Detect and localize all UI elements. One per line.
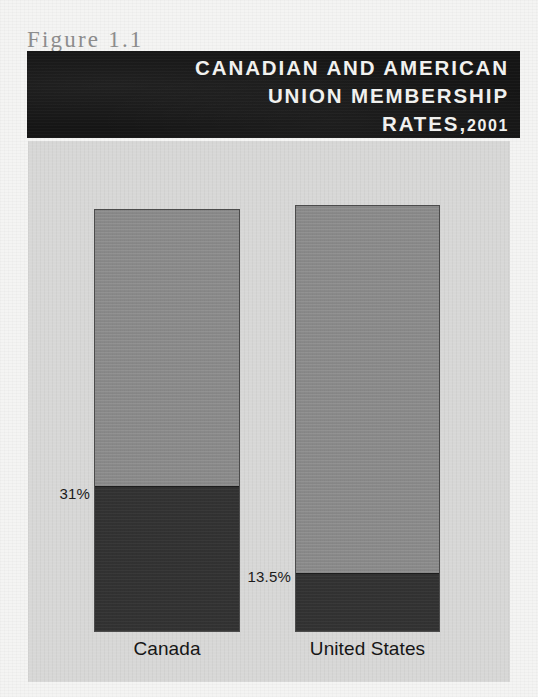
figure-title-banner: CANADIAN AND AMERICAN UNION MEMBERSHIP R… <box>27 51 520 138</box>
title-line-3-text: RATES, <box>382 112 467 135</box>
title-line-2: UNION MEMBERSHIP <box>27 82 509 110</box>
figure-page: Figure 1.1 CANADIAN AND AMERICAN UNION M… <box>0 0 538 697</box>
title-line-1: CANADIAN AND AMERICAN <box>27 54 509 82</box>
value-label-united-states: 13.5% <box>225 568 291 585</box>
bar-canada <box>94 209 240 632</box>
category-label-united-states: United States <box>285 638 450 660</box>
bar-united-states <box>295 205 440 632</box>
title-line-3: RATES,2001 <box>27 110 509 140</box>
bar-united-states-union-segment <box>296 573 439 631</box>
value-label-canada: 31% <box>34 485 90 502</box>
category-label-canada: Canada <box>94 638 240 660</box>
bar-canada-union-segment <box>95 486 239 631</box>
bar-united-states-remainder-segment <box>296 206 439 575</box>
figure-caption: Figure 1.1 <box>27 27 144 53</box>
title-year: 2001 <box>467 117 509 134</box>
bar-canada-remainder-segment <box>95 210 239 488</box>
chart-plot-area: 31% 13.5% Canada United States <box>28 141 510 682</box>
